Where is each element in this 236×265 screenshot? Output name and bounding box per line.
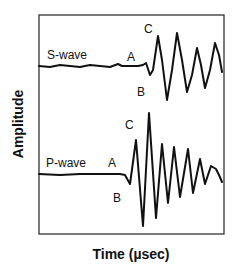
- waveform-chart: S-wave A B C P-wave A B C Time (µsec) Am…: [0, 0, 236, 265]
- s-wave-trace: [39, 33, 222, 100]
- s-wave-marker-b: B: [137, 85, 145, 99]
- s-wave-marker-a: A: [127, 50, 135, 64]
- x-axis-label: Time (µsec): [92, 246, 169, 262]
- s-wave-label: S-wave: [47, 48, 87, 62]
- y-axis-label: Amplitude: [10, 90, 26, 159]
- p-wave-marker-c: C: [125, 118, 134, 132]
- p-wave-marker-a: A: [108, 156, 116, 170]
- p-wave-label: P-wave: [46, 156, 86, 170]
- s-wave-marker-c: C: [144, 22, 153, 36]
- p-wave-marker-b: B: [113, 191, 121, 205]
